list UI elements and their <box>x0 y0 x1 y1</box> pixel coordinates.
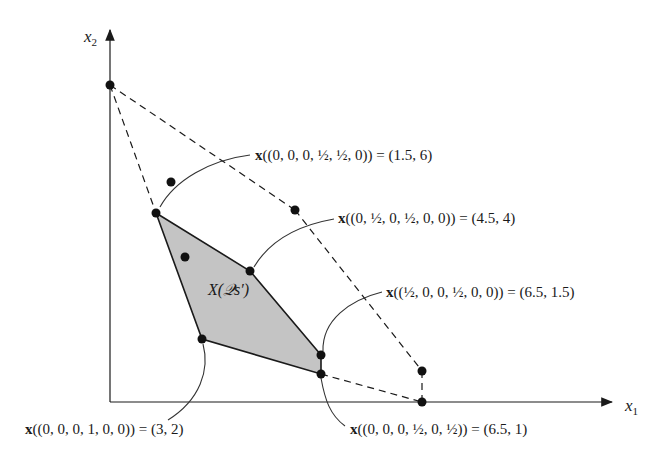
vector-symbol: x <box>386 284 394 300</box>
x1-axis-label: x1 <box>625 397 638 417</box>
vector-symbol: x <box>255 147 263 163</box>
annotation-1: x((0, 0, 0, ½, ½, 0)) = (1.5, 6) <box>255 148 432 163</box>
point <box>167 178 176 187</box>
vector-symbol: x <box>338 210 346 226</box>
annotation-5: x((0, 0, 0, ½, 0, ½)) = (6.5, 1) <box>350 422 527 437</box>
point <box>181 253 190 262</box>
vector-symbol: x <box>350 421 358 437</box>
point <box>246 267 255 276</box>
x1-subscript: 1 <box>633 405 639 417</box>
vector-symbol: x <box>25 421 33 437</box>
annotation-text: ((0, 0, 0, ½, 0, ½)) = (6.5, 1) <box>358 421 528 437</box>
point <box>152 209 161 218</box>
point <box>198 335 207 344</box>
annotation-text: ((0, 0, 0, 1, 0, 0)) = (3, 2) <box>33 421 184 437</box>
region-label: X(𝒬s′) <box>208 282 249 298</box>
diagram-canvas <box>0 0 672 463</box>
point <box>317 370 326 379</box>
point <box>418 398 427 407</box>
annotation-text: ((0, ½, 0, ½, 0, 0)) = (4.5, 4) <box>346 210 516 226</box>
annotation-text: ((0, 0, 0, ½, ½, 0)) = (1.5, 6) <box>263 147 433 163</box>
x2-symbol: x <box>84 27 92 46</box>
annotation-4: x((0, 0, 0, 1, 0, 0)) = (3, 2) <box>25 422 183 437</box>
point <box>418 367 427 376</box>
point <box>317 351 326 360</box>
annotation-text: ((½, 0, 0, ½, 0, 0)) = (6.5, 1.5) <box>394 284 575 300</box>
point <box>106 81 115 90</box>
annotation-2: x((0, ½, 0, ½, 0, 0)) = (4.5, 4) <box>338 211 515 226</box>
x2-axis-label: x2 <box>84 28 97 48</box>
point <box>291 206 300 215</box>
x1-symbol: x <box>625 396 633 415</box>
annotation-3: x((½, 0, 0, ½, 0, 0)) = (6.5, 1.5) <box>386 285 574 300</box>
x2-subscript: 2 <box>92 36 98 48</box>
